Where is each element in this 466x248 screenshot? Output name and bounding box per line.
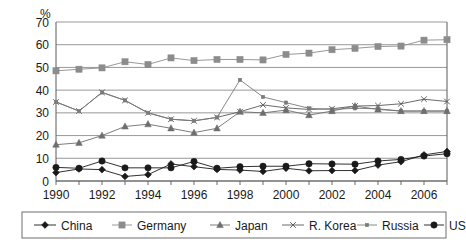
data-point-marker: [421, 37, 427, 43]
x-tick-label: 1990: [43, 188, 70, 202]
data-point-marker: [146, 111, 149, 114]
data-point-marker: [123, 99, 126, 102]
y-tick-label: 20: [36, 129, 50, 143]
data-point-marker: [284, 101, 287, 104]
x-tick-label: 2002: [319, 188, 346, 202]
data-point-marker: [352, 167, 359, 174]
data-point-marker: [122, 173, 129, 180]
series-r-korea: [53, 90, 450, 124]
data-point-marker: [283, 51, 289, 57]
series-japan: [53, 102, 451, 147]
legend-label: Germany: [137, 219, 186, 233]
data-point-marker: [192, 119, 195, 122]
data-point-marker: [306, 50, 312, 56]
series-germany: [53, 37, 450, 74]
data-point-marker: [191, 163, 198, 170]
data-point-marker: [53, 169, 60, 176]
series-line: [56, 151, 447, 176]
x-tick-label: 1994: [135, 188, 162, 202]
y-tick-label: 30: [36, 106, 50, 120]
x-tick-label: 2004: [365, 188, 392, 202]
data-point-marker: [122, 165, 128, 171]
data-point-marker: [145, 61, 151, 67]
data-point-marker: [99, 158, 105, 164]
series-us: [53, 151, 450, 172]
x-tick-label: 2006: [411, 188, 438, 202]
data-point-marker: [352, 161, 358, 167]
data-point-marker: [214, 56, 220, 62]
data-point-marker: [100, 91, 103, 94]
chart-legend: ChinaGermanyJapanR. KoreaRussiaUS: [22, 212, 466, 238]
series-line: [56, 80, 447, 121]
data-point-marker: [352, 45, 358, 51]
data-point-marker: [168, 55, 174, 61]
gridlines: [56, 22, 447, 181]
data-point-marker: [99, 166, 106, 173]
y-axis-unit-label: %: [40, 7, 51, 21]
data-point-marker: [261, 95, 264, 98]
legend-label: R. Korea: [309, 219, 357, 233]
y-axis-tick-labels: 010203040506070: [36, 16, 50, 189]
y-tick-label: 10: [36, 152, 50, 166]
legend-label: China: [61, 219, 93, 233]
data-point-marker: [329, 47, 335, 53]
data-point-marker: [421, 107, 428, 113]
y-tick-label: 50: [36, 61, 50, 75]
data-point-marker: [191, 58, 197, 64]
data-point-marker: [145, 121, 152, 127]
data-point-marker: [444, 107, 451, 113]
line-chart: 010203040506070 199019921994199619982000…: [0, 0, 466, 248]
data-point-marker: [119, 222, 125, 228]
x-axis-tick-labels: 199019921994199619982000200220042006: [43, 188, 438, 202]
data-point-marker: [398, 43, 404, 49]
legend-label: Russia: [382, 219, 419, 233]
data-point-marker: [431, 222, 437, 228]
y-tick-label: 60: [36, 38, 50, 52]
y-tick-label: 0: [42, 175, 49, 189]
data-point-marker: [260, 168, 267, 175]
data-point-marker: [214, 125, 221, 131]
series-line: [56, 106, 447, 145]
data-point-marker: [54, 100, 57, 103]
data-point-marker: [215, 116, 218, 119]
data-point-marker: [76, 66, 82, 72]
data-point-marker: [444, 37, 450, 43]
data-point-marker: [169, 118, 172, 121]
x-tick-label: 1996: [181, 188, 208, 202]
data-point-marker: [237, 56, 243, 62]
data-point-marker: [375, 43, 381, 49]
data-point-marker: [260, 57, 266, 63]
series-line: [56, 154, 447, 169]
data-point-marker: [365, 223, 368, 226]
y-tick-label: 40: [36, 84, 50, 98]
data-point-marker: [238, 78, 241, 81]
data-point-marker: [145, 171, 152, 178]
legend-label: US: [449, 219, 466, 233]
x-tick-label: 1998: [227, 188, 254, 202]
data-point-marker: [306, 161, 312, 167]
chart-container: 010203040506070 199019921994199619982000…: [0, 0, 466, 248]
data-point-marker: [145, 165, 151, 171]
data-point-marker: [306, 167, 313, 174]
data-point-marker: [122, 59, 128, 65]
legend-label: Japan: [235, 219, 268, 233]
x-tick-label: 1992: [89, 188, 116, 202]
x-tick-label: 2000: [273, 188, 300, 202]
data-point-marker: [329, 167, 336, 174]
data-point-marker: [329, 161, 335, 167]
series-russia: [54, 78, 448, 122]
data-point-marker: [307, 107, 310, 110]
data-point-marker: [99, 65, 105, 71]
data-point-marker: [53, 68, 59, 74]
data-point-marker: [77, 109, 80, 112]
